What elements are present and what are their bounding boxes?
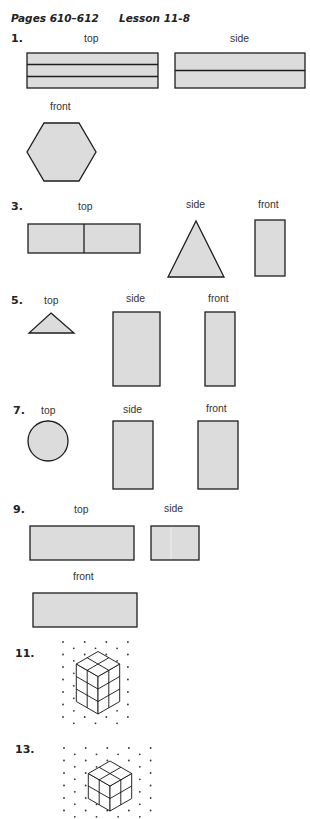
p7-front-rect xyxy=(198,421,238,489)
p5-front-rect xyxy=(205,312,235,386)
grid-dot xyxy=(73,722,75,724)
grid-dot xyxy=(96,816,98,818)
grid-dot xyxy=(62,641,64,643)
grid-dot xyxy=(139,791,141,793)
p5-top-triangle xyxy=(29,313,74,333)
grid-dot xyxy=(150,810,152,812)
grid-dot xyxy=(62,704,64,706)
grid-dot xyxy=(63,785,65,787)
p5-side-rect xyxy=(113,312,160,386)
grid-dot xyxy=(74,766,76,768)
grid-dot xyxy=(85,747,87,749)
grid-dot xyxy=(128,747,130,749)
grid-dot xyxy=(73,697,75,699)
grid-dot xyxy=(63,747,65,749)
p1-side-view xyxy=(175,53,305,88)
grid-dot xyxy=(117,753,119,755)
p13-isometric-drawing xyxy=(63,747,151,818)
p9-side-rect xyxy=(151,526,199,560)
grid-dot xyxy=(63,760,65,762)
grid-dot xyxy=(106,747,108,749)
grid-dot xyxy=(63,810,65,812)
p1-front-hexagon xyxy=(27,123,96,181)
grid-dot xyxy=(150,772,152,774)
grid-dot xyxy=(105,716,107,718)
p9-front-rect xyxy=(33,593,137,627)
grid-dot xyxy=(84,654,86,656)
grid-dot xyxy=(73,685,75,687)
grid-dot xyxy=(127,666,129,668)
p9-top-rect xyxy=(30,526,134,560)
p3-side-triangle xyxy=(168,221,224,277)
grid-dot xyxy=(128,760,130,762)
grid-dot xyxy=(85,760,87,762)
grid-dot xyxy=(116,722,118,724)
grid-dot xyxy=(96,753,98,755)
p3-front-rect xyxy=(255,220,285,276)
grid-dot xyxy=(73,710,75,712)
grid-dot xyxy=(139,753,141,755)
grid-dot xyxy=(128,810,130,812)
grid-dot xyxy=(74,791,76,793)
grid-dot xyxy=(73,647,75,649)
grid-dot xyxy=(106,760,108,762)
figures-canvas xyxy=(0,0,310,819)
grid-dot xyxy=(127,641,129,643)
grid-dot xyxy=(139,778,141,780)
grid-dot xyxy=(63,797,65,799)
grid-dot xyxy=(150,797,152,799)
grid-dot xyxy=(74,778,76,780)
grid-dot xyxy=(74,753,76,755)
grid-dot xyxy=(84,716,86,718)
grid-dot xyxy=(62,679,64,681)
grid-dot xyxy=(73,672,75,674)
grid-dot xyxy=(85,772,87,774)
p11-isometric-drawing xyxy=(62,641,129,724)
grid-dot xyxy=(150,747,152,749)
grid-dot xyxy=(127,691,129,693)
grid-dot xyxy=(105,654,107,656)
grid-dot xyxy=(96,766,98,768)
grid-dot xyxy=(84,641,86,643)
grid-dot xyxy=(127,716,129,718)
grid-dot xyxy=(116,660,118,662)
grid-dot xyxy=(150,785,152,787)
grid-dot xyxy=(85,785,87,787)
grid-dot xyxy=(116,710,118,712)
grid-dot xyxy=(117,816,119,818)
grid-dot xyxy=(127,679,129,681)
grid-dot xyxy=(62,716,64,718)
grid-dot xyxy=(85,810,87,812)
grid-dot xyxy=(85,797,87,799)
grid-dot xyxy=(62,691,64,693)
grid-dot xyxy=(116,647,118,649)
grid-dot xyxy=(139,803,141,805)
grid-dot xyxy=(74,816,76,818)
grid-dot xyxy=(73,660,75,662)
grid-dot xyxy=(127,704,129,706)
grid-dot xyxy=(139,816,141,818)
p7-top-circle xyxy=(28,421,68,461)
grid-dot xyxy=(62,654,64,656)
p7-side-rect xyxy=(113,421,153,489)
grid-dot xyxy=(139,766,141,768)
p1-top-view xyxy=(27,53,158,88)
p3-top-view xyxy=(28,224,140,253)
grid-dot xyxy=(105,641,107,643)
grid-dot xyxy=(127,654,129,656)
grid-dot xyxy=(74,803,76,805)
grid-dot xyxy=(62,666,64,668)
grid-dot xyxy=(63,772,65,774)
grid-dot xyxy=(95,722,97,724)
grid-dot xyxy=(95,647,97,649)
grid-dot xyxy=(150,760,152,762)
